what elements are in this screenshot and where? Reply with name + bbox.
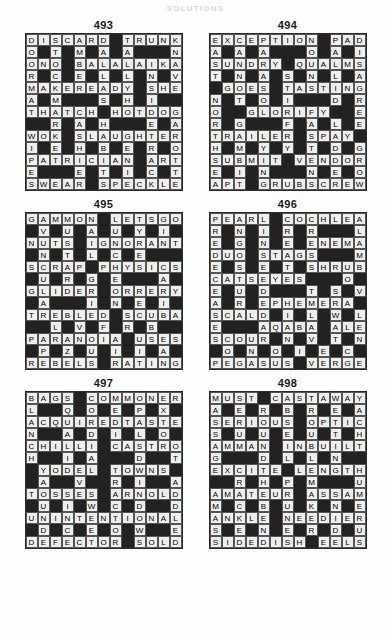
grid-letter-cell[interactable]: S: [146, 82, 158, 94]
grid-letter-cell[interactable]: H: [98, 118, 110, 130]
grid-letter-cell[interactable]: R: [38, 309, 50, 321]
grid-letter-cell[interactable]: G: [234, 118, 246, 130]
grid-letter-cell[interactable]: O: [86, 404, 98, 416]
grid-letter-cell[interactable]: E: [306, 512, 318, 524]
grid-letter-cell[interactable]: G: [170, 106, 182, 118]
grid-letter-cell[interactable]: A: [306, 321, 318, 333]
grid-letter-cell[interactable]: P: [26, 333, 38, 345]
grid-letter-cell[interactable]: D: [170, 500, 182, 512]
grid-letter-cell[interactable]: L: [258, 106, 270, 118]
grid-letter-cell[interactable]: C: [110, 500, 122, 512]
grid-letter-cell[interactable]: D: [330, 142, 342, 154]
grid-letter-cell[interactable]: I: [50, 440, 62, 452]
grid-letter-cell[interactable]: R: [170, 130, 182, 142]
grid-letter-cell[interactable]: N: [134, 488, 146, 500]
grid-letter-cell[interactable]: A: [74, 118, 86, 130]
grid-letter-cell[interactable]: T: [134, 213, 146, 225]
grid-letter-cell[interactable]: E: [258, 488, 270, 500]
grid-letter-cell[interactable]: E: [282, 237, 294, 249]
grid-letter-cell[interactable]: V: [306, 357, 318, 369]
grid-letter-cell[interactable]: R: [282, 106, 294, 118]
grid-letter-cell[interactable]: R: [86, 34, 98, 46]
grid-letter-cell[interactable]: H: [158, 82, 170, 94]
grid-letter-cell[interactable]: A: [62, 178, 74, 190]
grid-letter-cell[interactable]: M: [306, 476, 318, 488]
grid-letter-cell[interactable]: N: [222, 512, 234, 524]
grid-letter-cell[interactable]: L: [342, 440, 354, 452]
grid-letter-cell[interactable]: R: [330, 261, 342, 273]
grid-letter-cell[interactable]: E: [342, 178, 354, 190]
grid-letter-cell[interactable]: E: [210, 464, 222, 476]
grid-letter-cell[interactable]: R: [50, 261, 62, 273]
grid-letter-cell[interactable]: C: [146, 166, 158, 178]
grid-letter-cell[interactable]: O: [98, 392, 110, 404]
grid-letter-cell[interactable]: S: [74, 130, 86, 142]
grid-letter-cell[interactable]: S: [86, 488, 98, 500]
grid-letter-cell[interactable]: O: [170, 213, 182, 225]
grid-letter-cell[interactable]: N: [330, 452, 342, 464]
grid-letter-cell[interactable]: U: [270, 416, 282, 428]
grid-letter-cell[interactable]: X: [222, 464, 234, 476]
grid-letter-cell[interactable]: E: [210, 261, 222, 273]
grid-letter-cell[interactable]: L: [342, 536, 354, 548]
grid-letter-cell[interactable]: R: [158, 285, 170, 297]
grid-letter-cell[interactable]: A: [74, 34, 86, 46]
grid-letter-cell[interactable]: S: [50, 488, 62, 500]
grid-letter-cell[interactable]: A: [98, 130, 110, 142]
grid-letter-cell[interactable]: I: [50, 512, 62, 524]
grid-letter-cell[interactable]: P: [318, 416, 330, 428]
grid-letter-cell[interactable]: A: [62, 333, 74, 345]
grid-letter-cell[interactable]: D: [110, 416, 122, 428]
grid-letter-cell[interactable]: E: [258, 273, 270, 285]
grid-letter-cell[interactable]: G: [50, 392, 62, 404]
grid-letter-cell[interactable]: E: [38, 357, 50, 369]
grid-letter-cell[interactable]: N: [122, 154, 134, 166]
grid-letter-cell[interactable]: I: [354, 46, 366, 58]
grid-letter-cell[interactable]: T: [50, 46, 62, 58]
grid-letter-cell[interactable]: E: [354, 500, 366, 512]
grid-letter-cell[interactable]: G: [330, 464, 342, 476]
grid-letter-cell[interactable]: A: [306, 118, 318, 130]
grid-letter-cell[interactable]: K: [50, 130, 62, 142]
crossword-grid[interactable]: EXCEPTIONPADAAAOAISUNDRYQUALMSTNASNLAGOE…: [209, 33, 367, 191]
grid-letter-cell[interactable]: T: [98, 166, 110, 178]
grid-letter-cell[interactable]: H: [282, 297, 294, 309]
grid-letter-cell[interactable]: S: [210, 333, 222, 345]
grid-letter-cell[interactable]: X: [158, 404, 170, 416]
grid-letter-cell[interactable]: I: [62, 452, 74, 464]
grid-letter-cell[interactable]: L: [158, 488, 170, 500]
grid-letter-cell[interactable]: L: [26, 404, 38, 416]
grid-letter-cell[interactable]: D: [26, 34, 38, 46]
grid-letter-cell[interactable]: O: [294, 213, 306, 225]
grid-letter-cell[interactable]: A: [38, 154, 50, 166]
grid-letter-cell[interactable]: N: [234, 225, 246, 237]
grid-letter-cell[interactable]: V: [74, 321, 86, 333]
grid-letter-cell[interactable]: T: [170, 166, 182, 178]
grid-letter-cell[interactable]: F: [306, 106, 318, 118]
grid-letter-cell[interactable]: A: [98, 46, 110, 58]
grid-letter-cell[interactable]: E: [50, 309, 62, 321]
grid-letter-cell[interactable]: S: [234, 392, 246, 404]
grid-letter-cell[interactable]: G: [258, 178, 270, 190]
grid-letter-cell[interactable]: L: [122, 58, 134, 70]
grid-letter-cell[interactable]: S: [50, 34, 62, 46]
grid-letter-cell[interactable]: L: [98, 70, 110, 82]
grid-letter-cell[interactable]: V: [38, 225, 50, 237]
grid-letter-cell[interactable]: U: [282, 178, 294, 190]
grid-letter-cell[interactable]: T: [134, 357, 146, 369]
grid-letter-cell[interactable]: I: [330, 82, 342, 94]
grid-letter-cell[interactable]: R: [306, 404, 318, 416]
grid-letter-cell[interactable]: I: [98, 333, 110, 345]
grid-letter-cell[interactable]: L: [62, 440, 74, 452]
grid-letter-cell[interactable]: I: [158, 297, 170, 309]
grid-letter-cell[interactable]: I: [86, 440, 98, 452]
grid-letter-cell[interactable]: A: [62, 261, 74, 273]
grid-letter-cell[interactable]: T: [134, 106, 146, 118]
grid-letter-cell[interactable]: E: [222, 416, 234, 428]
grid-letter-cell[interactable]: C: [270, 392, 282, 404]
grid-letter-cell[interactable]: D: [62, 285, 74, 297]
grid-letter-cell[interactable]: A: [234, 309, 246, 321]
grid-letter-cell[interactable]: N: [26, 237, 38, 249]
grid-letter-cell[interactable]: Q: [50, 416, 62, 428]
grid-letter-cell[interactable]: C: [110, 249, 122, 261]
